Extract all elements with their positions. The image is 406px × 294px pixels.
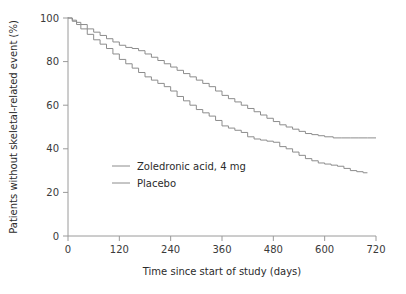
legend-label-placebo: Placebo [137, 178, 176, 189]
x-tick-label: 360 [212, 244, 231, 255]
x-tick-label: 480 [264, 244, 283, 255]
kaplan-meier-figure: 020406080100 0120240360480600720 Time si… [0, 0, 406, 294]
legend-label-zoledronic-acid: Zoledronic acid, 4 mg [137, 161, 246, 172]
x-tick-label: 720 [366, 244, 385, 255]
x-axis: 0120240360480600720 [65, 236, 386, 255]
y-tick-label: 60 [46, 100, 59, 111]
series-group [68, 18, 376, 173]
y-tick-label: 100 [40, 13, 59, 24]
y-tick-group: 020406080100 [40, 13, 68, 242]
y-axis: 020406080100 [40, 13, 68, 242]
y-tick-label: 20 [46, 187, 59, 198]
chart-canvas: 020406080100 0120240360480600720 Time si… [0, 0, 406, 294]
chart-legend: Zoledronic acid, 4 mgPlacebo [112, 161, 246, 189]
y-axis-title: Patients without skeletal-related event … [8, 20, 19, 234]
x-tick-label: 240 [161, 244, 180, 255]
y-tick-label: 80 [46, 56, 59, 67]
x-tick-label: 120 [110, 244, 129, 255]
x-tick-group: 0120240360480600720 [65, 236, 386, 255]
series-line-zoledronic-acid [68, 18, 376, 138]
y-tick-label: 0 [53, 231, 59, 242]
x-axis-title: Time since start of study (days) [142, 266, 302, 277]
x-tick-label: 600 [315, 244, 334, 255]
x-tick-label: 0 [65, 244, 71, 255]
y-tick-label: 40 [46, 143, 59, 154]
